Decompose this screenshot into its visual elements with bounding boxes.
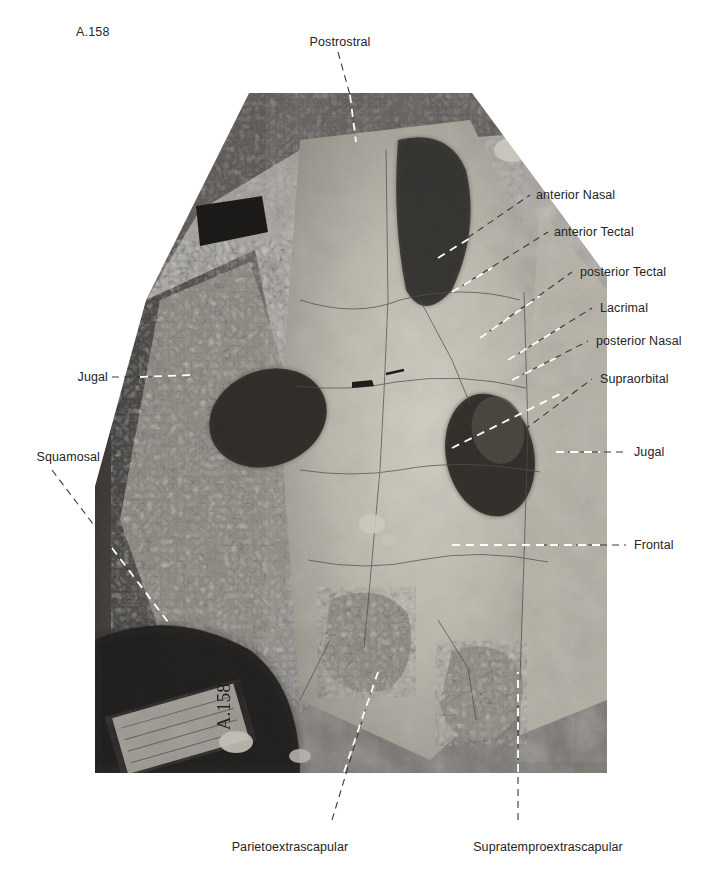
leader-parietoextrascapular (332, 688, 372, 820)
leader-squamosal-onphoto (112, 548, 168, 622)
label-posterior-tectal: posterior Tectal (580, 266, 666, 279)
leader-posterior-nasal-onphoto (512, 358, 556, 380)
leader-postrostral-upper (338, 52, 350, 95)
label-jugal-right: Jugal (634, 446, 664, 459)
leader-anterior-tectal (452, 232, 548, 292)
label-anterior-tectal: anterior Tectal (554, 226, 634, 239)
leader-posterior-tectal (480, 272, 572, 338)
specimen-number: A.158 (76, 25, 110, 39)
label-postrostral: Postrostral (280, 36, 400, 49)
leader-lacrimal-onphoto (508, 328, 560, 360)
label-anterior-nasal: anterior Nasal (536, 189, 615, 202)
label-squamosal: Squamosal (0, 451, 100, 464)
specimen-photograph: A.158 (0, 0, 708, 890)
leader-anterior-tectal-onphoto (452, 268, 492, 292)
label-jugal-left: Jugal (0, 371, 108, 384)
label-posterior-nasal: posterior Nasal (596, 335, 682, 348)
leader-postrostral-onphoto (350, 95, 356, 142)
leader-jugal-left-onphoto (140, 375, 190, 377)
figure-plate: A.158 (0, 0, 708, 890)
leader-anterior-nasal-onphoto (438, 238, 470, 258)
leader-supraorbital (524, 379, 592, 430)
leader-supraorbital-onphoto (452, 394, 560, 448)
leader-posterior-tectal-onphoto (480, 296, 540, 338)
label-frontal: Frontal (634, 539, 674, 552)
label-parietoextrascapular: Parietoextrascapular (160, 841, 420, 854)
label-supratemproextrascapular: Supratemproextrascapular (398, 841, 698, 854)
label-supraorbital: Supraorbital (600, 373, 669, 386)
specimen-card-text: A.158 (213, 683, 234, 730)
label-lacrimal: Lacrimal (600, 302, 648, 315)
leader-squamosal (52, 470, 128, 570)
leader-posterior-nasal (512, 341, 588, 380)
leader-lacrimal (508, 308, 592, 360)
leader-parieto-onphoto (344, 672, 378, 772)
leader-anterior-nasal (438, 195, 530, 258)
